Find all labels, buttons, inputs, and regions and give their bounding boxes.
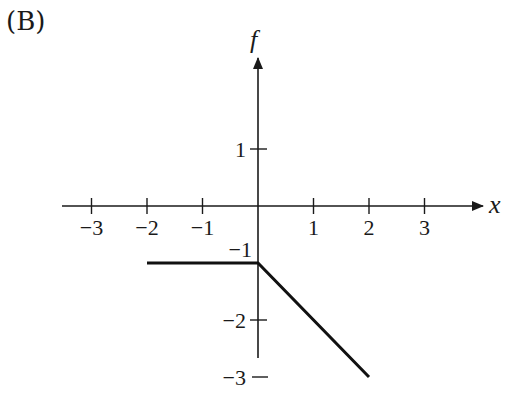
y-axis-label: f <box>250 25 261 54</box>
x-tick-label: 3 <box>419 215 430 240</box>
x-axis-label: x <box>488 190 501 219</box>
x-tick-label: −1 <box>191 215 214 240</box>
x-tick-label: −3 <box>80 215 103 240</box>
y-tick-label: 1 <box>235 137 246 162</box>
x-tick-label: 1 <box>308 215 319 240</box>
x-tick-label: 2 <box>364 215 375 240</box>
y-tick-label: −2 <box>223 308 246 333</box>
piecewise-plot: xf −3−2−11231−1−2−3 <box>0 0 523 408</box>
y-tick-label: −1 <box>229 237 252 262</box>
y-tick-label: −3 <box>223 365 246 390</box>
x-tick-label: −2 <box>135 215 158 240</box>
axes: xf <box>62 25 501 358</box>
